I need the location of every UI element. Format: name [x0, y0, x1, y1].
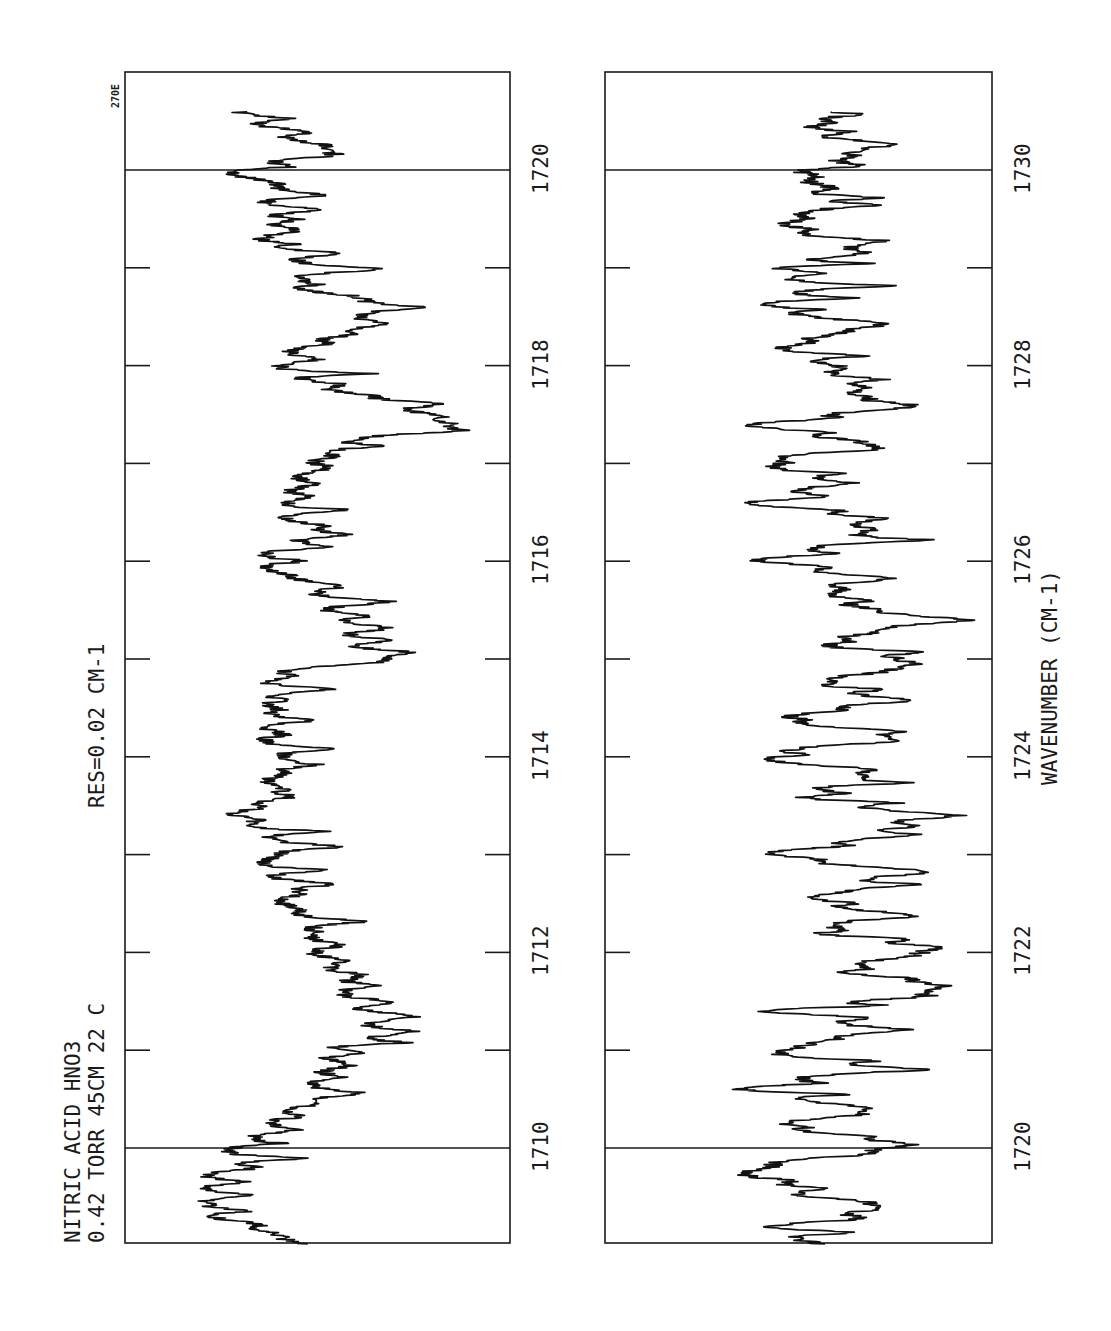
x-axis-label: WAVENUMBER (CM-1) [1038, 570, 1062, 785]
right-tick-label: 1730 [1011, 143, 1035, 194]
right-tick-label: 1720 [1011, 1121, 1035, 1172]
right-spectrum-trace [732, 112, 974, 1244]
right-panel: 1720 1722 1724 1726 1728 1730 WAVENUMBER… [605, 72, 1062, 1244]
spectrum-figure: NITRIC ACID HNO3 0.42 TORR 45CM 22 C RES… [0, 0, 1111, 1331]
right-tick-label: 1726 [1011, 534, 1035, 585]
right-tick-label: 1728 [1011, 339, 1035, 390]
left-tick-label: 1718 [529, 339, 553, 390]
title-line-2: 0.42 TORR 45CM 22 C [85, 1003, 109, 1243]
title-line-1: NITRIC ACID HNO3 [61, 1041, 85, 1243]
left-tick-label: 1714 [529, 730, 553, 781]
right-tick-label: 1722 [1011, 925, 1035, 976]
right-tick-labels: 1720 1722 1724 1726 1728 1730 [1011, 143, 1035, 1172]
left-tick-label: 1710 [529, 1121, 553, 1172]
right-tick-label: 1724 [1011, 730, 1035, 781]
left-tick-labels: 1710 1712 1714 1716 1718 1720 [529, 143, 553, 1172]
left-frame [125, 72, 510, 1243]
left-panel: 1710 1712 1714 1716 1718 1720 [125, 72, 553, 1244]
resolution-label: RES=0.02 CM-1 [85, 644, 109, 808]
right-frame [605, 72, 992, 1243]
left-tick-label: 1712 [529, 925, 553, 976]
left-spectrum-trace [198, 112, 470, 1244]
plate-code: 270E [110, 84, 121, 108]
left-tick-label: 1716 [529, 534, 553, 585]
right-ticks [605, 268, 992, 1050]
left-tick-label: 1720 [529, 143, 553, 194]
header-block: NITRIC ACID HNO3 0.42 TORR 45CM 22 C RES… [61, 84, 121, 1243]
